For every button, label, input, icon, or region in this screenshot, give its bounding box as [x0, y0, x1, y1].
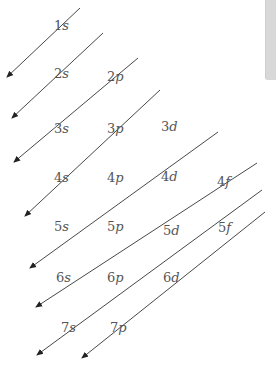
diagonal-arrow-icon	[25, 90, 160, 216]
orbital-label-3s: 3s	[54, 121, 69, 136]
orbital-label-2p: 2p	[107, 69, 124, 84]
diagonal-arrow-icon	[30, 132, 218, 268]
orbital-label-6d: 6d	[163, 270, 180, 285]
orbital-label-5s: 5s	[54, 219, 69, 234]
orbital-label-group: 1s2s2p3s3p3d4s4p4d4f5s5p5d5f6s6p6d7s7p	[54, 18, 233, 335]
orbital-label-5p: 5p	[107, 219, 124, 234]
orbital-label-5f: 5f	[218, 220, 233, 235]
aufbau-diagram: 1s2s2p3s3p3d4s4p4d4f5s5p5d5f6s6p6d7s7p	[0, 0, 276, 365]
orbital-label-7s: 7s	[61, 320, 76, 335]
orbital-label-6s: 6s	[56, 270, 71, 285]
orbital-label-5d: 5d	[163, 223, 180, 238]
orbital-label-3p: 3p	[107, 121, 124, 136]
orbital-label-4f: 4f	[217, 174, 232, 189]
orbital-label-3d: 3d	[161, 119, 178, 134]
orbital-label-4d: 4d	[161, 169, 178, 184]
orbital-label-2s: 2s	[54, 66, 69, 81]
orbital-label-6p: 6p	[107, 270, 124, 285]
orbital-label-4p: 4p	[107, 170, 124, 185]
orbital-label-7p: 7p	[110, 320, 127, 335]
diagonal-arrow-icon	[7, 8, 80, 77]
side-panel-tab[interactable]	[265, 0, 276, 80]
orbital-label-4s: 4s	[54, 170, 69, 185]
orbital-label-1s: 1s	[54, 18, 69, 33]
